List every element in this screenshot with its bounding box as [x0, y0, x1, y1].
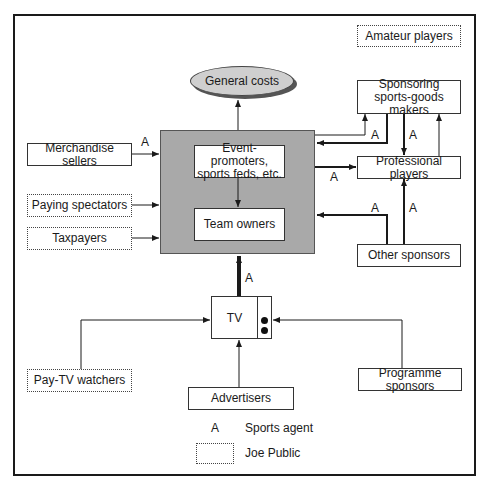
- node-professional-players: Professional players: [357, 156, 461, 179]
- tv-screen: TV: [212, 297, 257, 338]
- professional-players-label: Professional players: [360, 155, 458, 181]
- node-sponsoring-makers: Sponsoring sports-goods makers: [357, 80, 461, 114]
- tv-control-panel: [257, 297, 272, 338]
- paying-spectators-label: Paying spectators: [32, 199, 127, 212]
- other-sponsors-label: Other sponsors: [368, 249, 450, 262]
- node-other-sponsors: Other sponsors: [357, 244, 461, 267]
- node-tv: TV: [211, 296, 272, 339]
- legend-agent-symbol: A: [211, 421, 219, 435]
- sponsoring-makers-label: Sponsoring sports-goods makers: [360, 78, 458, 117]
- taxpayers-label: Taxpayers: [52, 232, 107, 245]
- team-owners-label: Team owners: [204, 218, 275, 231]
- node-programme-sponsors: Programme sponsors: [358, 368, 462, 391]
- node-general-costs: General costs: [190, 66, 294, 96]
- merchandise-sellers-label: Merchandise sellers: [30, 142, 129, 168]
- agent-marker: A: [371, 201, 379, 215]
- node-amateur-players: Amateur players: [357, 25, 461, 47]
- tv-knob-icon: [261, 317, 268, 324]
- tv-knob-icon: [261, 327, 268, 334]
- tv-label: TV: [227, 311, 242, 325]
- agent-marker: A: [409, 201, 417, 215]
- agent-marker: A: [409, 128, 417, 142]
- amateur-players-label: Amateur players: [365, 30, 452, 43]
- node-taxpayers: Taxpayers: [27, 227, 132, 250]
- agent-marker: A: [330, 170, 338, 184]
- node-merchandise-sellers: Merchandise sellers: [27, 143, 132, 166]
- node-paying-spectators: Paying spectators: [27, 194, 132, 217]
- event-promoters-label: Event-promoters, sports feds, etc.: [197, 142, 282, 181]
- legend-agent-text: Sports agent: [245, 421, 313, 435]
- node-pay-tv-watchers: Pay-TV watchers: [27, 369, 132, 392]
- node-advertisers: Advertisers: [188, 387, 294, 410]
- legend-public-text: Joe Public: [245, 446, 300, 460]
- advertisers-label: Advertisers: [211, 392, 271, 405]
- agent-marker: A: [371, 128, 379, 142]
- agent-marker: A: [141, 135, 149, 149]
- node-team-owners: Team owners: [194, 208, 285, 241]
- legend-public-swatch: [196, 443, 234, 464]
- node-event-promoters: Event-promoters, sports feds, etc.: [194, 145, 285, 178]
- programme-sponsors-label: Programme sponsors: [361, 367, 459, 393]
- agent-marker: A: [245, 271, 253, 285]
- general-costs-label: General costs: [205, 74, 279, 88]
- pay-tv-watchers-label: Pay-TV watchers: [34, 374, 125, 387]
